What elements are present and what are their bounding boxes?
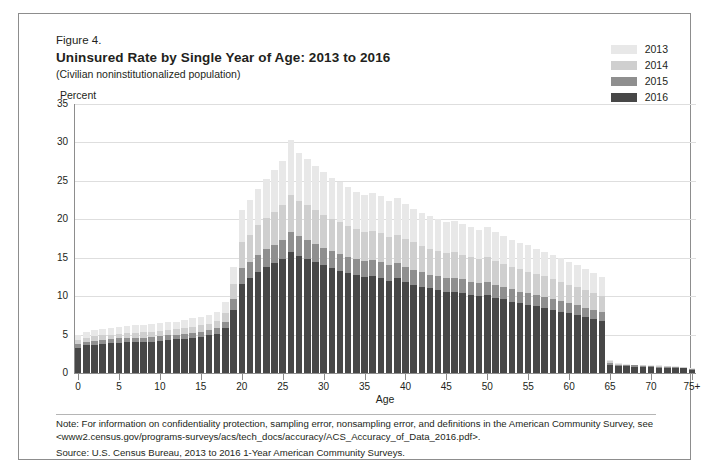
x-tick-label: 50 [482,382,493,392]
plot-wrapper: 05101520253035 0510152025303540455055606… [19,14,692,461]
bar-2016 [157,341,164,373]
bar-2016 [116,343,123,373]
bar-2016 [468,295,475,373]
bar-2016 [689,370,696,373]
y-tick-label: 5 [42,330,68,340]
bar-2016 [329,268,336,373]
bar-2016 [541,308,548,373]
bar-2016 [550,310,557,373]
y-tick-label: 15 [42,253,68,263]
x-tick-mark [119,374,120,380]
x-tick-mark [446,374,447,380]
x-tick-label: 70 [645,382,656,392]
bar-2016 [525,305,532,373]
bar-2016 [271,263,278,373]
bar-2016 [361,277,368,373]
x-tick-mark [651,374,652,380]
bar-2016 [558,312,565,373]
x-tick-label: 35 [359,382,370,392]
x-tick-label: 45 [441,382,452,392]
bar-2016 [590,319,597,373]
bar-2016 [312,262,319,373]
bar-2016 [296,256,303,373]
bar-2016 [345,273,352,373]
bar-2016 [108,343,115,373]
figure-note: Note: For information on confidentiality… [56,418,661,443]
bar-2016 [459,293,466,373]
bar-2016 [582,317,589,373]
x-tick-label: 25 [277,382,288,392]
bar-2016 [623,366,630,373]
bar-2016 [599,321,606,373]
x-tick-mark [610,374,611,380]
bar-2016 [419,287,426,373]
x-tick-mark [324,374,325,380]
bar-2016 [239,284,246,373]
x-tick-mark [78,374,79,380]
bar-2016 [517,303,524,373]
bar-2016 [132,342,139,373]
x-tick-label: 75+ [683,382,700,392]
x-tick-mark [487,374,488,380]
bar-2016 [181,339,188,373]
bar-2016 [615,366,622,373]
x-tick-label: 55 [523,382,534,392]
x-tick-label: 20 [236,382,247,392]
figure-source: Source: U.S. Census Bureau, 2013 to 2016… [56,447,661,460]
bar-2016 [410,285,417,373]
bar-2016 [672,368,679,373]
x-tick-mark [201,374,202,380]
bar-2016 [566,313,573,373]
bar-2016 [148,342,155,374]
bar-2016 [353,275,360,373]
y-tick-label: 20 [42,214,68,224]
x-tick-mark [365,374,366,380]
footnote-divider [56,414,656,415]
bar-2016 [509,302,516,373]
x-tick-mark [242,374,243,380]
bar-2016 [443,292,450,373]
y-tick-label: 0 [42,368,68,378]
bar-2016 [83,345,90,373]
bar-2016 [214,334,221,373]
x-tick-label: 5 [116,382,122,392]
bar-2016 [304,259,311,373]
x-tick-mark [692,374,693,380]
bar-2016 [337,271,344,373]
bar-2016 [435,290,442,373]
bar-2016 [476,296,483,373]
bar-2016 [165,340,172,373]
x-tick-label: 0 [75,382,81,392]
x-tick-mark [283,374,284,380]
bar-2016 [222,328,229,373]
bar-2016 [574,315,581,373]
bar-2016 [656,368,663,373]
bar-2016 [288,252,295,373]
x-tick-label: 40 [400,382,411,392]
bar-2016 [279,259,286,373]
x-tick-mark [405,374,406,380]
bar-2016 [189,338,196,373]
bar-2016 [484,295,491,373]
bar-2016 [247,278,254,373]
y-tick-label: 10 [42,291,68,301]
bar-2016 [206,335,213,373]
bar-2016 [255,272,262,373]
bar-2016 [173,339,180,373]
x-tick-mark [569,374,570,380]
bar-2016 [427,288,434,373]
x-tick-label: 60 [564,382,575,392]
bar-2016 [500,299,507,373]
x-tick-mark [528,374,529,380]
bar-2016 [680,368,687,373]
x-tick-label: 15 [195,382,206,392]
bar-2016 [402,282,409,373]
bar-2016 [99,344,106,373]
bar-2016 [451,292,458,373]
y-tick-label: 25 [42,176,68,186]
bar-2016 [140,342,147,374]
bar-2016 [124,342,131,373]
bar-2016 [664,368,671,373]
bar-2016 [640,367,647,373]
x-tick-mark [160,374,161,380]
